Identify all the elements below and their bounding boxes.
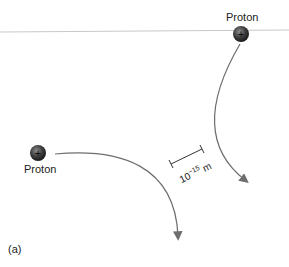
panel-label: (a) xyxy=(8,243,21,255)
trajectory-left-proton xyxy=(55,153,178,236)
diagram-graphics: + + xyxy=(0,0,289,267)
trajectory-top-proton xyxy=(214,44,245,180)
plus-icon: + xyxy=(35,147,41,159)
proton-scattering-diagram: + + Proton Proton 10−15 m (a) xyxy=(0,0,289,267)
plus-icon: + xyxy=(238,28,244,40)
proton-left: + xyxy=(30,145,46,161)
proton-top-right: + xyxy=(233,26,249,42)
proton-label-left: Proton xyxy=(24,163,56,175)
proton-label-top: Proton xyxy=(226,11,258,23)
